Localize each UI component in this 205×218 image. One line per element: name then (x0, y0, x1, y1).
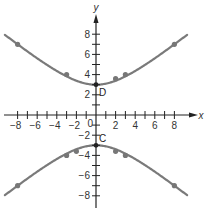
origin-label: 0 (87, 118, 93, 129)
x-tick-label: 8 (172, 120, 178, 131)
hyperbola-chart: −8−6−4−224688642−2−4−6−80xyDC (0, 0, 205, 218)
y-tick-label: −2 (79, 130, 91, 141)
data-point (172, 42, 177, 47)
x-tick-label: 4 (132, 120, 138, 131)
vertex-point (94, 82, 99, 87)
x-tick-label: 6 (152, 120, 158, 131)
y-tick-label: 4 (84, 69, 90, 80)
y-tick-label: 8 (84, 29, 90, 40)
vertex-point (94, 143, 99, 148)
data-point (64, 153, 69, 158)
data-point (113, 76, 118, 81)
point-label-c: C (99, 133, 106, 144)
y-tick-label: −4 (79, 150, 91, 161)
y-tick-label: −6 (79, 170, 91, 181)
data-point (64, 72, 69, 77)
data-point (123, 153, 128, 158)
y-axis-label: y (93, 2, 100, 13)
chart-canvas: −8−6−4−224688642−2−4−6−80xyDC (0, 0, 205, 218)
x-tick-label: −6 (29, 120, 41, 131)
x-tick-label: −4 (49, 120, 61, 131)
x-tick-label: 2 (113, 120, 119, 131)
data-point (113, 149, 118, 154)
data-point (15, 183, 20, 188)
data-point (15, 42, 20, 47)
point-label-d: D (99, 87, 106, 98)
x-axis-arrow-icon (189, 113, 198, 118)
x-axis-label: x (198, 110, 205, 121)
y-tick-label: −8 (79, 190, 91, 201)
axes-layer (4, 14, 198, 208)
y-axis-arrow-icon (94, 14, 99, 23)
y-tick-label: 6 (84, 49, 90, 60)
x-tick-label: −8 (10, 120, 22, 131)
data-point (172, 183, 177, 188)
data-point (123, 72, 128, 77)
y-tick-label: 2 (84, 89, 90, 100)
